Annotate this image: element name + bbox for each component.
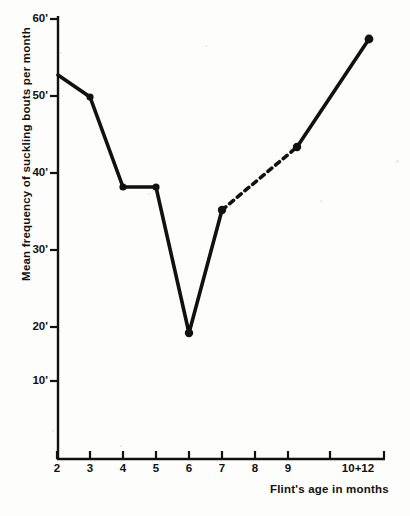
series-line-dashed xyxy=(222,147,297,210)
data-point-3 xyxy=(86,93,93,100)
scan-speck xyxy=(148,193,150,195)
scan-speck xyxy=(52,430,54,432)
data-point-6 xyxy=(185,329,193,337)
scan-speck xyxy=(205,45,207,47)
data-point-5 xyxy=(152,183,159,190)
scan-speck xyxy=(60,52,62,54)
data-point-7 xyxy=(218,206,226,214)
scan-speck xyxy=(120,445,122,447)
data-point-9 xyxy=(293,143,301,151)
chart-figure: Mean frequency of suckling bouts per mon… xyxy=(0,0,410,516)
data-point-4 xyxy=(119,183,126,190)
data-point-10plus12 xyxy=(365,35,374,44)
scan-speck xyxy=(396,160,399,163)
plot-area xyxy=(0,0,410,516)
scan-speck xyxy=(320,200,322,202)
series-line-solid-right xyxy=(297,39,369,147)
scan-speck xyxy=(46,254,48,256)
series-line-solid-left xyxy=(58,75,222,333)
